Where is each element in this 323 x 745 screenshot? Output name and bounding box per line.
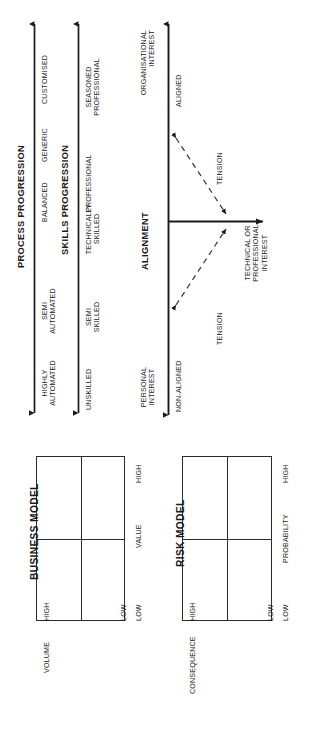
risk-model-vertical-divider bbox=[227, 457, 228, 620]
tension-label-upper: TENSION bbox=[216, 152, 224, 185]
tick-label-skills-professional: PROFESSIONAL bbox=[85, 154, 93, 212]
tick-label-process-semi-automated: SEMI AUTOMATED bbox=[41, 282, 58, 340]
business-model-matrix bbox=[36, 456, 125, 621]
axis-label-personal-interest: PERSONAL INTEREST bbox=[140, 360, 157, 414]
risk-model-title: RISK MODEL bbox=[175, 500, 187, 567]
tick-label-process-generic: GENERIC bbox=[41, 128, 49, 162]
tension-arrow-lower bbox=[176, 229, 226, 305]
risk-model-x-high: HIGH bbox=[189, 602, 197, 621]
tick-label-skills-seasoned-professional: SEASONED PROFESSIONAL bbox=[85, 52, 102, 122]
tick-label-alignment-non-aligned: NON-ALIGNED bbox=[175, 361, 183, 412]
axis-title-skills-progression: SKILLS PROGRESSION bbox=[60, 145, 71, 255]
risk-model-y-low: LOW bbox=[282, 604, 290, 621]
business-model-x-label: VOLUME bbox=[43, 642, 51, 673]
risk-model-matrix bbox=[182, 456, 272, 621]
business-model-y-high: HIGH bbox=[135, 464, 143, 483]
axis-title-process-progression: PROCESS PROGRESSION bbox=[16, 145, 27, 268]
tension-label-lower: TENSION bbox=[216, 312, 224, 345]
business-model-title: BUSINESS MODEL bbox=[29, 483, 41, 580]
business-model-x-low: LOW bbox=[120, 604, 128, 621]
tick-label-process-balanced: BALANCED bbox=[41, 182, 49, 222]
axis-title-alignment: ALIGNMENT bbox=[140, 212, 151, 270]
axis-label-technical-or-professional-interest: TECHNICAL OR PROFESSIONAL INTEREST bbox=[244, 216, 269, 290]
tick-label-skills-unskilled: UNSKILLED bbox=[85, 369, 93, 410]
business-model-y-low: LOW bbox=[135, 604, 143, 621]
tick-label-skills-semi-skilled: SEMI SKILLED bbox=[85, 294, 102, 340]
tick-label-process-customised: CUSTOMISED bbox=[41, 55, 49, 104]
risk-model-x-low: LOW bbox=[267, 604, 275, 621]
tick-label-alignment-aligned: ALIGNED bbox=[175, 74, 183, 107]
business-model-y-label: VALUE bbox=[135, 524, 143, 548]
business-model-vertical-divider bbox=[81, 457, 82, 620]
axis-label-organisational-interest: ORGANISATIONAL INTEREST bbox=[140, 30, 157, 112]
risk-model-y-high: HIGH bbox=[282, 464, 290, 483]
risk-model-y-label: PROBABILITY bbox=[282, 514, 290, 563]
business-model-x-high: HIGH bbox=[43, 602, 51, 621]
tick-label-process-highly-automated: HIGHLY AUTOMATED bbox=[41, 354, 58, 412]
diagram-canvas: PROCESS PROGRESSION HIGHLY AUTOMATED SEM… bbox=[0, 0, 323, 745]
risk-model-x-label: CONSEQUENCE bbox=[189, 636, 197, 694]
